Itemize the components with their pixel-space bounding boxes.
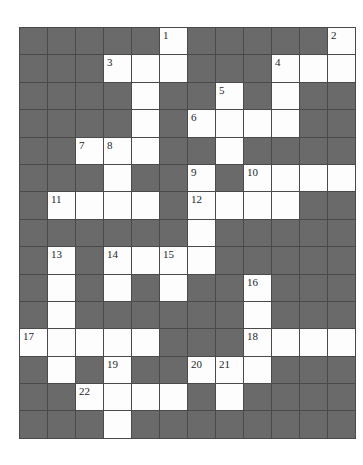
crossword-cell-white[interactable]: 16 (243, 274, 271, 301)
crossword-cell-white[interactable] (159, 54, 187, 81)
crossword-cell-blocked (215, 410, 243, 437)
crossword-cell-white[interactable] (47, 274, 75, 301)
crossword-cell-white[interactable]: 22 (75, 383, 103, 410)
crossword-cell-white[interactable] (299, 54, 327, 81)
crossword-cell-white[interactable] (299, 164, 327, 191)
crossword-cell-white[interactable] (243, 109, 271, 136)
crossword-cell-white[interactable] (215, 383, 243, 410)
crossword-cell-blocked (243, 82, 271, 109)
clue-number: 21 (219, 358, 230, 370)
crossword-cell-white[interactable] (131, 109, 159, 136)
crossword-cell-white[interactable] (131, 82, 159, 109)
crossword-cell-white[interactable]: 17 (19, 328, 47, 355)
crossword-cell-white[interactable] (103, 328, 131, 355)
crossword-cell-blocked (19, 383, 47, 410)
crossword-cell-blocked (271, 410, 299, 437)
crossword-cell-white[interactable] (131, 246, 159, 273)
crossword-cell-white[interactable] (215, 137, 243, 164)
crossword-cell-white[interactable] (243, 356, 271, 383)
crossword-cell-white[interactable] (327, 328, 355, 355)
crossword-cell-white[interactable] (131, 328, 159, 355)
crossword-cell-blocked (243, 54, 271, 81)
crossword-cell-white[interactable] (47, 356, 75, 383)
crossword-cell-white[interactable] (299, 328, 327, 355)
crossword-cell-white[interactable] (131, 383, 159, 410)
clue-number: 19 (107, 358, 118, 370)
crossword-cell-white[interactable]: 9 (187, 164, 215, 191)
crossword-cell-blocked (271, 246, 299, 273)
crossword-cell-white[interactable] (103, 383, 131, 410)
crossword-cell-white[interactable]: 12 (187, 191, 215, 218)
crossword-cell-blocked (299, 301, 327, 328)
crossword-cell-blocked (159, 109, 187, 136)
crossword-cell-blocked (187, 274, 215, 301)
crossword-cell-white[interactable]: 11 (47, 191, 75, 218)
crossword-cell-blocked (271, 137, 299, 164)
crossword-cell-white[interactable] (47, 328, 75, 355)
clue-number: 22 (79, 385, 90, 397)
crossword-cell-blocked (131, 274, 159, 301)
crossword-cell-white[interactable]: 3 (103, 54, 131, 81)
crossword-cell-white[interactable] (215, 191, 243, 218)
crossword-cell-blocked (47, 383, 75, 410)
crossword-cell-white[interactable] (131, 137, 159, 164)
crossword-cell-white[interactable]: 6 (187, 109, 215, 136)
crossword-cell-white[interactable] (131, 191, 159, 218)
crossword-cell-white[interactable] (159, 274, 187, 301)
crossword-cell-white[interactable]: 4 (271, 54, 299, 81)
crossword-cell-white[interactable] (271, 109, 299, 136)
crossword-cell-blocked (159, 356, 187, 383)
crossword-cell-white[interactable] (75, 328, 103, 355)
clue-number: 4 (275, 56, 281, 68)
crossword-cell-blocked (131, 301, 159, 328)
crossword-cell-blocked (75, 410, 103, 437)
crossword-cell-white[interactable] (271, 328, 299, 355)
crossword-cell-white[interactable] (187, 246, 215, 273)
crossword-cell-white[interactable] (103, 164, 131, 191)
crossword-cell-white[interactable] (327, 54, 355, 81)
crossword-cell-white[interactable] (243, 301, 271, 328)
crossword-cell-white[interactable] (47, 301, 75, 328)
crossword-cell-blocked (75, 219, 103, 246)
crossword-cell-white[interactable] (103, 410, 131, 437)
crossword-cell-white[interactable]: 10 (243, 164, 271, 191)
crossword-cell-white[interactable]: 20 (187, 356, 215, 383)
crossword-cell-white[interactable] (75, 191, 103, 218)
crossword-cell-white[interactable] (327, 164, 355, 191)
crossword-cell-white[interactable]: 5 (215, 82, 243, 109)
crossword-cell-white[interactable] (243, 191, 271, 218)
crossword-cell-blocked (19, 356, 47, 383)
crossword-cell-white[interactable] (131, 54, 159, 81)
crossword-cell-white[interactable] (271, 191, 299, 218)
crossword-cell-blocked (19, 164, 47, 191)
crossword-cell-white[interactable]: 8 (103, 137, 131, 164)
crossword-cell-blocked (299, 410, 327, 437)
crossword-cell-blocked (243, 27, 271, 54)
crossword-cell-blocked (187, 137, 215, 164)
crossword-cell-white[interactable]: 18 (243, 328, 271, 355)
crossword-cell-white[interactable] (215, 109, 243, 136)
crossword-cell-blocked (131, 410, 159, 437)
crossword-cell-white[interactable] (271, 82, 299, 109)
crossword-cell-white[interactable]: 2 (327, 27, 355, 54)
crossword-cell-blocked (215, 54, 243, 81)
crossword-cell-blocked (215, 164, 243, 191)
crossword-cell-white[interactable]: 15 (159, 246, 187, 273)
crossword-cell-blocked (215, 219, 243, 246)
crossword-cell-white[interactable]: 19 (103, 356, 131, 383)
crossword-grid: 12345678910111213141516171819202122 (19, 27, 356, 439)
crossword-cell-white[interactable]: 14 (103, 246, 131, 273)
crossword-cell-blocked (103, 27, 131, 54)
crossword-cell-white[interactable] (187, 219, 215, 246)
crossword-cell-white[interactable]: 1 (159, 27, 187, 54)
crossword-cell-white[interactable]: 7 (75, 137, 103, 164)
crossword-cell-white[interactable] (271, 164, 299, 191)
crossword-cell-blocked (187, 27, 215, 54)
crossword-cell-white[interactable]: 13 (47, 246, 75, 273)
crossword-cell-white[interactable] (159, 383, 187, 410)
crossword-cell-white[interactable] (103, 274, 131, 301)
crossword-cell-blocked (75, 246, 103, 273)
crossword-cell-white[interactable]: 21 (215, 356, 243, 383)
crossword-cell-white[interactable] (103, 191, 131, 218)
crossword-cell-blocked (187, 54, 215, 81)
